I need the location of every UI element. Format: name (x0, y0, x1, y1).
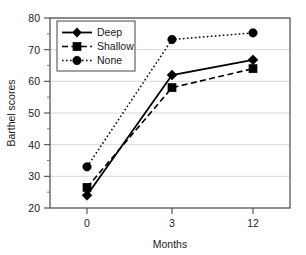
chart-figure: 80 70 60 50 40 30 20 Barthel scores 0 3 … (0, 0, 306, 255)
legend-label-shallow: Shallow (97, 40, 134, 52)
line-chart: 80 70 60 50 40 30 20 Barthel scores 0 3 … (0, 0, 306, 255)
shallow-point-3 (168, 84, 176, 92)
shallow-point-12 (249, 65, 257, 73)
x-tick-label-0: 0 (84, 217, 90, 229)
y-tick-label-30: 30 (28, 170, 40, 182)
x-axis-title: Months (153, 238, 187, 250)
legend-square-marker-icon (73, 43, 81, 51)
none-point-3 (168, 35, 176, 43)
y-tick-label-50: 50 (28, 107, 40, 119)
y-tick-label-40: 40 (28, 139, 40, 151)
y-tick-label-70: 70 (28, 44, 40, 56)
y-tick-label-20: 20 (28, 202, 40, 214)
y-axis-title: Barthel scores (5, 79, 17, 146)
y-tick-label-80: 80 (28, 12, 40, 24)
y-axis-ticks (44, 18, 50, 208)
y-tick-label-60: 60 (28, 75, 40, 87)
legend-label-deep: Deep (97, 26, 122, 38)
x-tick-label-3: 3 (169, 217, 175, 229)
x-axis-ticks (87, 208, 253, 214)
legend: Deep Shallow None (57, 21, 135, 71)
x-tick-label-12: 12 (247, 217, 259, 229)
legend-circle-marker-icon (73, 56, 81, 64)
none-point-0 (83, 163, 91, 171)
none-point-12 (249, 29, 257, 37)
legend-label-none: None (97, 54, 122, 66)
